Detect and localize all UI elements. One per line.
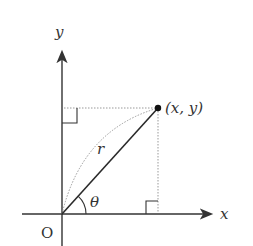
origin-label: O	[41, 224, 53, 242]
angle-arc	[78, 196, 86, 214]
angle-label: θ	[90, 193, 99, 211]
radius-line	[62, 108, 158, 214]
radius-label: r	[97, 140, 105, 158]
right-angle-marker-y	[62, 108, 77, 123]
point-marker	[155, 105, 161, 111]
right-angle-marker-x	[146, 201, 158, 214]
point-label: (x, y)	[165, 99, 203, 117]
y-axis-label: y	[54, 23, 64, 41]
x-axis-label: x	[220, 205, 229, 223]
polar-coordinates-diagram: y x O θ r (x, y)	[0, 0, 253, 246]
